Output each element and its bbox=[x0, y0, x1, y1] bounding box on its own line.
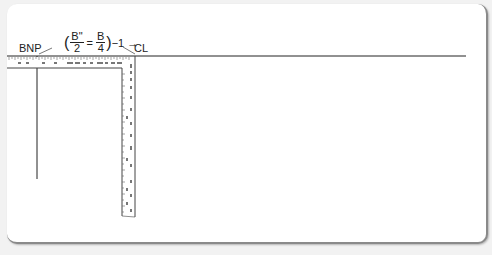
equals-sign: = bbox=[87, 37, 93, 49]
formula: ( B" 2 = B 4 ) −1 → bbox=[64, 31, 138, 54]
formula-minus-one: −1 bbox=[112, 37, 125, 49]
fraction-denominator: 4 bbox=[98, 43, 104, 54]
fraction-denominator: 2 bbox=[74, 43, 80, 54]
fraction-b-double-prime-over-2: B" 2 bbox=[70, 31, 83, 54]
right-arrow-icon: → bbox=[127, 37, 138, 49]
diagram-card: BNP CL ( B" 2 = B 4 ) −1 → bbox=[7, 4, 488, 244]
formula-open-paren: ( bbox=[64, 35, 69, 51]
bnp-label: BNP bbox=[19, 43, 42, 54]
fraction-b-over-4: B 4 bbox=[96, 31, 105, 54]
l-square-ruler bbox=[7, 56, 135, 217]
